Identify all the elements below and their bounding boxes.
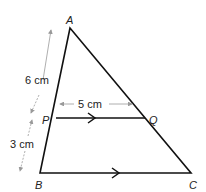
triangle-abc: [40, 28, 191, 173]
diagram-canvas: A P Q B C 6 cm 3 cm 5 cm: [0, 0, 206, 192]
label-c: C: [189, 179, 197, 191]
dimension-line-pb: [28, 120, 32, 136]
dimension-line-ap: [43, 30, 51, 80]
label-a: A: [65, 14, 73, 26]
label-p: P: [42, 114, 50, 126]
measurement-pq: 5 cm: [78, 98, 102, 110]
triangle-diagram: A P Q B C 6 cm 3 cm 5 cm: [0, 0, 206, 192]
label-b: B: [35, 179, 42, 191]
measurement-ap: 6 cm: [25, 74, 49, 86]
measurement-pb: 3 cm: [10, 138, 34, 150]
label-q: Q: [149, 114, 158, 126]
